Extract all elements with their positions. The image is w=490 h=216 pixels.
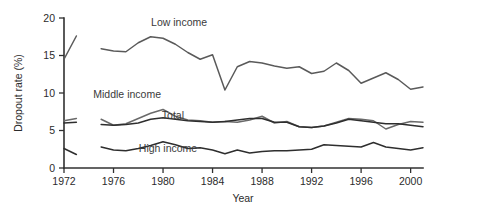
x-tick-label: 1976 <box>102 175 126 187</box>
series-line <box>101 37 423 90</box>
series-label: Middle income <box>93 88 161 100</box>
x-axis-tick-labels: 19721976198019841988199219962000 <box>52 175 422 187</box>
x-axis-title: Year <box>232 192 254 204</box>
series-line <box>64 119 76 121</box>
y-axis-tick-labels: 05101520 <box>43 12 55 174</box>
x-tick-label: 1992 <box>300 175 324 187</box>
chart-figure: 05101520 1972197619801984198819921996200… <box>0 0 490 216</box>
series-label: Low income <box>151 16 207 28</box>
x-tick-label: 2000 <box>399 175 423 187</box>
y-tick-label: 15 <box>43 49 55 61</box>
x-tick-label: 1996 <box>349 175 373 187</box>
y-tick-label: 0 <box>49 162 55 174</box>
series-line <box>64 36 76 59</box>
x-tick-label: 1984 <box>201 175 225 187</box>
x-tick-label: 1972 <box>52 175 76 187</box>
series-line <box>64 149 76 155</box>
series-line <box>64 122 76 123</box>
x-tick-label: 1980 <box>151 175 175 187</box>
series-label: Total <box>162 109 184 121</box>
series-line <box>101 118 423 128</box>
y-axis-title: Dropout rate (%) <box>12 54 24 132</box>
y-tick-label: 10 <box>43 87 55 99</box>
y-tick-label: 20 <box>43 12 55 24</box>
line-chart-canvas: 05101520 1972197619801984198819921996200… <box>0 0 490 216</box>
series-label: High income <box>139 142 198 154</box>
y-tick-label: 5 <box>49 124 55 136</box>
x-tick-label: 1988 <box>250 175 274 187</box>
